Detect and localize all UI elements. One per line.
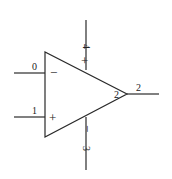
pin-4-number: 4 [81,44,92,49]
pin-3-number: 3 [81,146,92,151]
minus-symbol-supply: − [80,125,95,132]
op-amp-diagram: 0 − 1 + 2 2 4 + 3 − [0,0,172,179]
plus-symbol-supply: + [81,53,88,68]
pin-2-inner-label: 2 [114,89,119,100]
plus-symbol-input: + [49,110,56,125]
pin-1-number: 1 [32,105,37,116]
pin-2-number: 2 [136,82,141,93]
pin-0-number: 0 [32,61,37,72]
minus-symbol-input: − [50,65,57,80]
